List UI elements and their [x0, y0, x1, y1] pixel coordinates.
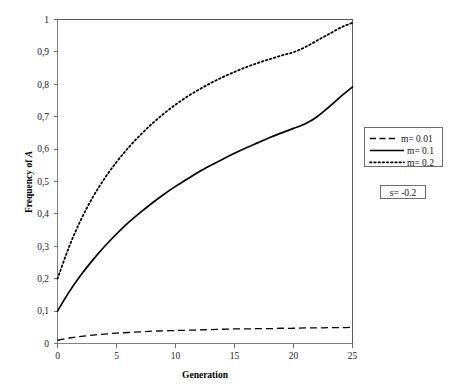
y-axis-title: Frequency of A: [24, 151, 34, 213]
annotation-s-value: s= -0.2: [381, 186, 426, 199]
y-tick-label: 0,4: [37, 209, 49, 219]
x-tick-label: 5: [114, 351, 119, 361]
x-tick-label: 20: [289, 351, 299, 361]
y-axis-title-italic: A: [24, 151, 34, 158]
y-tick-label: 1: [44, 15, 49, 25]
y-tick-label: 0,5: [37, 177, 49, 187]
y-tick-label: 0,2: [37, 274, 49, 284]
series-line-m-01: [58, 87, 353, 311]
legend: m= 0.01 m= 0.1 m= 0.2: [365, 128, 443, 168]
x-tick-label: 10: [171, 351, 181, 361]
chart-figure: 1 0,9 0,8 0,7 0,6 0,5 0,4 0,3 0,2 0,1 0 …: [0, 0, 461, 388]
series-line-m-02: [58, 23, 353, 279]
legend-label: m= 0.01: [401, 134, 433, 144]
legend-label: m= 0.2: [407, 158, 434, 168]
y-tick-label: 0: [44, 339, 49, 349]
series-line-m-001: [58, 327, 353, 340]
annotation-label: s= -0.2: [390, 188, 417, 198]
y-tick-label: 0,9: [37, 47, 49, 57]
y-tick-label: 0,3: [37, 242, 49, 252]
y-tick-label: 0,1: [37, 306, 49, 316]
svg-text:Frequency of A: Frequency of A: [24, 151, 34, 213]
x-tick-label: 15: [230, 351, 240, 361]
x-axis-tick-labels: 0 5 10 15 20 25: [55, 351, 357, 361]
x-tick-label: 25: [348, 351, 358, 361]
y-tick-label: 0,7: [37, 112, 49, 122]
y-axis-tick-labels: 1 0,9 0,8 0,7 0,6 0,5 0,4 0,3 0,2 0,1 0: [37, 15, 49, 349]
x-axis-ticks: [58, 344, 353, 348]
x-tick-label: 0: [55, 351, 60, 361]
y-tick-label: 0,8: [37, 80, 49, 90]
y-axis-title-plain: Frequency of: [24, 157, 34, 213]
y-axis-ticks: [54, 20, 58, 344]
line-chart-svg: 1 0,9 0,8 0,7 0,6 0,5 0,4 0,3 0,2 0,1 0 …: [0, 0, 461, 388]
y-tick-label: 0,6: [37, 144, 49, 154]
x-axis-title: Generation: [182, 370, 229, 380]
legend-label: m= 0.1: [407, 146, 434, 156]
